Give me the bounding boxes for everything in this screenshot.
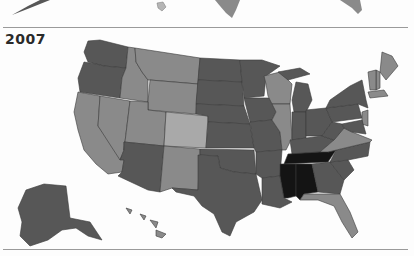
state-nd (198, 58, 242, 82)
prev-texas-tip (215, 0, 240, 18)
state-wy (148, 80, 198, 114)
state-ny (326, 80, 368, 108)
state-ks (206, 122, 254, 148)
divider-top (3, 27, 408, 28)
map-canvas (0, 0, 414, 256)
state-nh (376, 70, 380, 90)
prev-florida-tip (340, 0, 362, 14)
previous-map-fragment (12, 0, 362, 18)
prev-alaska-tail (12, 0, 50, 15)
state-in (292, 112, 306, 140)
state-nm (160, 146, 200, 192)
state-az (118, 142, 164, 192)
state-ar (256, 150, 282, 178)
state-co (164, 112, 208, 148)
state-ak (18, 184, 102, 246)
state-sd (196, 80, 244, 106)
prev-hawaii (157, 2, 166, 11)
state-fl (300, 194, 358, 238)
state-hi (126, 208, 166, 238)
map-year-title: 2007 (5, 31, 46, 47)
divider-bottom (3, 249, 408, 250)
state-vt (368, 70, 376, 90)
state-or (78, 62, 126, 98)
us-states-layer (18, 40, 398, 246)
state-me (380, 52, 398, 80)
state-ma (368, 90, 388, 98)
